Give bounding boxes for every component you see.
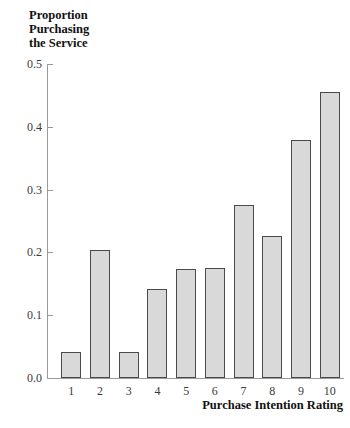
y-axis-title: Proportion Purchasing the Service: [29, 9, 89, 50]
bar: [234, 205, 254, 378]
chart-figure: Proportion Purchasing the Service 0.00.1…: [0, 0, 350, 428]
bar: [291, 140, 311, 378]
y-tick-mark: [48, 64, 53, 65]
x-tick-label: 1: [68, 384, 74, 399]
y-tick-mark: [48, 315, 53, 316]
bar: [205, 268, 225, 378]
x-tick-label: 3: [126, 384, 132, 399]
y-axis-title-line-3: the Service: [29, 37, 89, 51]
y-axis-line: [47, 64, 48, 378]
x-tick-label: 8: [269, 384, 275, 399]
y-axis-title-line-1: Proportion: [29, 9, 89, 23]
bar: [262, 236, 282, 378]
x-tick-label: 9: [298, 384, 304, 399]
x-tick-label: 4: [154, 384, 160, 399]
y-tick-label: 0.4: [27, 119, 42, 134]
y-tick-label: 0.1: [27, 308, 42, 323]
y-tick-mark: [48, 378, 53, 379]
y-tick-mark: [48, 190, 53, 191]
bar: [320, 92, 340, 378]
y-tick-mark: [48, 127, 53, 128]
plot-area: 0.00.10.20.30.40.5 12345678910: [47, 64, 344, 378]
y-axis-title-line-2: Purchasing: [29, 23, 89, 37]
x-tick-label: 5: [183, 384, 189, 399]
x-axis-title: Purchase Intention Rating: [202, 398, 343, 413]
x-tick-label: 7: [241, 384, 247, 399]
x-tick-label: 6: [212, 384, 218, 399]
x-tick-label: 10: [324, 384, 336, 399]
bar: [61, 352, 81, 378]
bar: [90, 250, 110, 378]
y-tick-mark: [48, 252, 53, 253]
x-axis-line: [47, 378, 344, 379]
y-tick-label: 0.5: [27, 57, 42, 72]
bar: [147, 289, 167, 378]
bar: [176, 269, 196, 378]
bar: [119, 352, 139, 378]
y-tick-label: 0.3: [27, 182, 42, 197]
x-tick-label: 2: [97, 384, 103, 399]
y-tick-label: 0.0: [27, 371, 42, 386]
y-tick-label: 0.2: [27, 245, 42, 260]
